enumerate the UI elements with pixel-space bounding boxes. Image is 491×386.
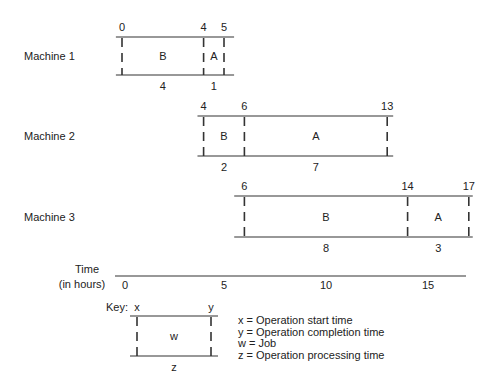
key-legend-z: z = Operation processing time	[238, 350, 384, 362]
machine-2-duration-b: 2	[221, 161, 227, 173]
time-axis-label: Time	[75, 263, 99, 275]
machine-3-time-label: 6	[241, 180, 247, 192]
machine-1-time-label: 4	[201, 21, 207, 33]
machine-2-time-label: 4	[201, 100, 207, 112]
machine-2-job-b: B	[220, 130, 227, 142]
machine-2-time-label: 6	[241, 100, 247, 112]
machine-1-job-a: A	[210, 50, 218, 62]
machine-3-job-a: A	[435, 211, 443, 223]
key-legend: x = Operation start time y = Operation c…	[238, 315, 384, 361]
machine-2-time-label: 13	[381, 100, 393, 112]
time-axis-tick: 10	[320, 279, 332, 291]
machine-1-duration-a: 1	[211, 80, 217, 92]
machine-1-job-b: B	[159, 50, 166, 62]
key-duration-symbol: z	[171, 361, 177, 373]
machine-3-label: Machine 3	[24, 211, 75, 223]
machine-3-duration-b: 8	[323, 242, 329, 254]
key-legend-x: x = Operation start time	[238, 315, 384, 327]
key-job-symbol: w	[169, 330, 178, 342]
time-axis-unit-label: (in hours)	[59, 278, 105, 290]
machine-1-time-label: 5	[221, 21, 227, 33]
machine-3-job-b: B	[322, 211, 329, 223]
machine-1-duration-b: 4	[160, 80, 166, 92]
machine-1-time-label: 0	[119, 21, 125, 33]
machine-2-job-a: A	[312, 130, 320, 142]
time-axis-tick: 5	[221, 279, 227, 291]
machine-1-label: Machine 1	[24, 50, 75, 62]
machine-3-time-label: 14	[401, 180, 413, 192]
machine-3-time-label: 17	[463, 180, 475, 192]
time-axis-tick: 15	[422, 279, 434, 291]
key-end-symbol: y	[208, 301, 214, 313]
machine-3-duration-a: 3	[435, 242, 441, 254]
key-start-symbol: x	[134, 301, 140, 313]
time-axis-tick: 0	[122, 279, 128, 291]
key-title: Key:	[106, 301, 128, 313]
machine-2-label: Machine 2	[24, 130, 75, 142]
machine-2-duration-a: 7	[313, 161, 319, 173]
